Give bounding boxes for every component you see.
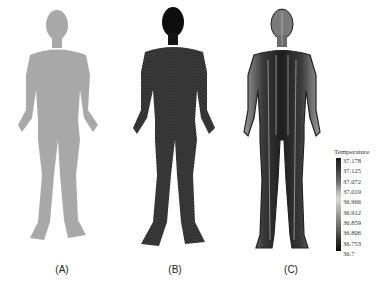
caption-c: (C) bbox=[276, 264, 306, 275]
panel-c-temperature-model bbox=[232, 0, 332, 250]
legend-tick: 36.966 bbox=[343, 197, 361, 207]
panel-a-solid-model bbox=[8, 0, 118, 250]
human-body-temperature-icon bbox=[232, 0, 332, 250]
legend-ticks: 37.178 37.125 37.072 37.019 36.966 36.91… bbox=[343, 156, 361, 259]
caption-a: (A) bbox=[47, 264, 77, 275]
legend-tick: 36.753 bbox=[343, 239, 361, 249]
panel-b-mesh-model bbox=[127, 0, 237, 250]
legend-tick: 37.125 bbox=[343, 166, 361, 176]
caption-b: (B) bbox=[160, 264, 190, 275]
legend-tick: 37.019 bbox=[343, 187, 361, 197]
legend-tick: 37.072 bbox=[343, 177, 361, 187]
human-body-solid-icon bbox=[8, 0, 118, 250]
legend-tick: 37.178 bbox=[343, 156, 361, 166]
legend-tick: 36.7 bbox=[343, 249, 361, 259]
legend-tick: 36.912 bbox=[343, 208, 361, 218]
human-body-mesh-icon bbox=[127, 0, 237, 250]
legend-title: Temperature bbox=[334, 148, 369, 156]
colorbar bbox=[336, 158, 341, 251]
legend-tick: 36.859 bbox=[343, 218, 361, 228]
legend-tick: 36.806 bbox=[343, 228, 361, 238]
